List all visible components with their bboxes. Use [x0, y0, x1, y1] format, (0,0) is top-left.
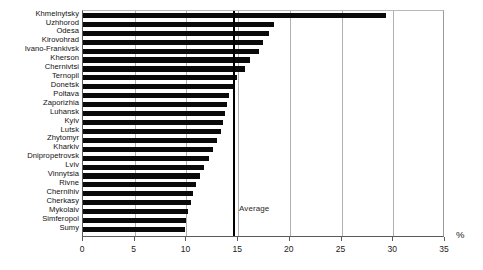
x-tick-20	[289, 237, 290, 241]
bar-row	[83, 65, 445, 74]
bar	[83, 129, 221, 134]
bar-row	[83, 216, 445, 225]
bar-row	[83, 56, 445, 65]
bar	[83, 218, 186, 223]
x-tick-label-10: 10	[181, 244, 190, 254]
bar	[83, 31, 269, 36]
bar-row	[83, 109, 445, 118]
bar-row	[83, 11, 445, 20]
axis-unit-label: %	[456, 229, 464, 240]
bar-row	[83, 91, 445, 100]
x-tick-label-30: 30	[388, 244, 397, 254]
bar	[83, 22, 274, 27]
average-line	[233, 11, 235, 236]
average-label: Average	[239, 204, 269, 213]
bar-row	[83, 82, 445, 91]
bar	[83, 200, 191, 205]
bar	[83, 147, 213, 152]
bar-row	[83, 127, 445, 136]
x-tick-label-0: 0	[80, 244, 85, 254]
bar-row	[83, 20, 445, 29]
bar	[83, 165, 204, 170]
x-tick-35	[444, 237, 445, 241]
bar	[83, 120, 223, 125]
bar-chart: KhmelnytskyUzhhorodOdesaKirovohradIvano-…	[0, 0, 483, 270]
bar	[83, 66, 245, 71]
x-tick-30	[392, 237, 393, 241]
bar	[83, 182, 196, 187]
bar-row	[83, 189, 445, 198]
bar	[83, 173, 200, 178]
x-tick-10	[185, 237, 186, 241]
bar-row	[83, 73, 445, 82]
bar	[83, 102, 227, 107]
category-axis-labels: KhmelnytskyUzhhorodOdesaKirovohradIvano-…	[0, 10, 79, 237]
bar	[83, 191, 193, 196]
bar-row	[83, 225, 445, 234]
x-tick-0	[82, 237, 83, 241]
x-tick-label-5: 5	[131, 244, 136, 254]
x-tick-25	[341, 237, 342, 241]
category-label-sumy: Sumy	[0, 224, 79, 233]
bar-row	[83, 38, 445, 47]
bar	[83, 209, 188, 214]
bar	[83, 138, 217, 143]
bar-row	[83, 118, 445, 127]
bar	[83, 75, 237, 80]
bar	[83, 40, 263, 45]
bar	[83, 111, 225, 116]
bar-row	[83, 180, 445, 189]
bar	[83, 84, 233, 89]
bar	[83, 156, 209, 161]
bar-row	[83, 29, 445, 38]
bar-row	[83, 154, 445, 163]
x-tick-label-20: 20	[284, 244, 293, 254]
bar	[83, 93, 229, 98]
x-tick-label-15: 15	[232, 244, 241, 254]
bar-row	[83, 163, 445, 172]
bar-row	[83, 136, 445, 145]
bars-layer	[83, 11, 443, 236]
x-tick-label-35: 35	[439, 244, 448, 254]
bar	[83, 227, 185, 232]
bar-row	[83, 47, 445, 56]
bar-row	[83, 100, 445, 109]
x-axis-tick-labels: 05101520253035	[0, 244, 483, 258]
plot-area: Average	[82, 10, 444, 237]
bar-row	[83, 145, 445, 154]
bar	[83, 57, 250, 62]
bar-row	[83, 172, 445, 181]
x-tick-5	[134, 237, 135, 241]
x-tick-label-25: 25	[336, 244, 345, 254]
x-tick-15	[237, 237, 238, 241]
